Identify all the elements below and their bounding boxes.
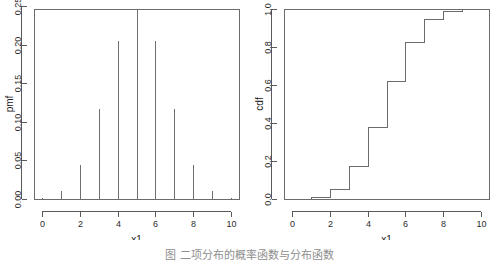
y-tick-label: 0.8 (263, 41, 273, 54)
y-axis-title: cdf (254, 97, 265, 111)
x-tick-label: 0 (40, 219, 45, 229)
x-axis-title: x1 (381, 234, 392, 240)
y-tick-label: 0.05 (13, 152, 23, 170)
x-tick-label: 6 (403, 219, 408, 229)
x-tick-label: 2 (78, 219, 83, 229)
figure-container: 02468100.000.050.100.150.200.25x1pmf 024… (0, 0, 499, 262)
y-tick-label: 0.0 (263, 193, 273, 206)
pmf-svg: 02468100.000.050.100.150.200.25x1pmf (0, 0, 249, 240)
cdf-step-line (285, 10, 490, 200)
x-tick-label: 10 (226, 219, 236, 229)
y-tick-label: 0.15 (13, 75, 23, 93)
y-tick-label: 0.00 (13, 191, 23, 209)
x-tick-label: 10 (476, 219, 486, 229)
x-tick-label: 2 (328, 219, 333, 229)
y-tick-label: 0.10 (13, 114, 23, 132)
x-tick-label: 4 (366, 219, 371, 229)
y-axis-title: pmf (4, 95, 15, 112)
y-tick-label: 0.4 (263, 117, 273, 130)
pmf-spikes (43, 9, 232, 199)
pmf-panel: 02468100.000.050.100.150.200.25x1pmf (0, 0, 249, 240)
y-tick-label: 0.2 (263, 155, 273, 168)
x-tick-label: 0 (290, 219, 295, 229)
x-tick-label: 8 (441, 219, 446, 229)
cdf-svg: 02468100.00.20.40.60.81.0x1cdf (250, 0, 499, 240)
x-tick-label: 6 (153, 219, 158, 229)
y-tick-label: 0.20 (13, 37, 23, 55)
figure-caption: 图 二项分布的概率函数与分布函数 (0, 248, 499, 262)
y-tick-label: 0.6 (263, 79, 273, 92)
x-axis-title: x1 (131, 234, 142, 240)
y-tick-label: 0.25 (13, 0, 23, 15)
x-tick-label: 4 (116, 219, 121, 229)
x-tick-label: 8 (191, 219, 196, 229)
y-tick-label: 1.0 (263, 3, 273, 16)
cdf-panel: 02468100.00.20.40.60.81.0x1cdf (250, 0, 499, 240)
